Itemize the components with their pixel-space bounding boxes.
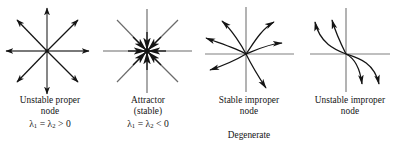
inequality: > 0 — [56, 118, 71, 129]
caption-line-2: (stable) — [100, 106, 196, 117]
caption-line-2: node — [302, 106, 398, 117]
panel-unstable-proper-node: Unstable proper node λ1 = λ2 > 0 — [0, 0, 100, 147]
inequality: < 0 — [154, 118, 169, 129]
caption-attractor: Attractor (stable) λ1 = λ2 < 0 — [100, 95, 196, 132]
trajectory-lower-left-1 — [210, 54, 246, 70]
ray-down-left — [17, 51, 47, 82]
origin-point — [144, 48, 149, 53]
arrow-in-up-right — [148, 37, 161, 50]
caption-line-1: Unstable improper — [302, 95, 398, 106]
trajectory-right — [246, 43, 282, 54]
phase-portrait-figure: Unstable proper node λ1 = λ2 > 0 — [0, 0, 398, 147]
trajectory-lower-right-1 — [246, 54, 266, 88]
trajectory-upper-left-2 — [206, 38, 246, 54]
arrow-in-down-right — [148, 52, 161, 65]
trajectory-lower-right-outer — [346, 54, 379, 84]
diagram-improper-node-stable — [196, 0, 302, 95]
arrow-in-down-left — [133, 52, 146, 65]
caption-line-2: node — [196, 106, 302, 117]
caption-stable-improper-node: Stable improper node — [196, 95, 302, 118]
trajectory-upper-right-1 — [246, 22, 274, 54]
equals-sign: = — [37, 118, 47, 129]
trajectory-upper-left-outer — [315, 22, 346, 54]
ray-up-left — [17, 20, 47, 51]
ray-up-right — [47, 20, 78, 51]
degenerate-group-label: Degenerate — [196, 130, 302, 141]
equals-sign: = — [135, 118, 145, 129]
origin-point — [45, 49, 48, 52]
caption-unstable-improper-node: Unstable improper node — [302, 95, 398, 118]
diagram-star-node-outward — [0, 0, 100, 95]
eigenvalue-condition: λ1 = λ2 < 0 — [100, 118, 196, 132]
diagram-improper-node-unstable — [302, 0, 398, 95]
caption-unstable-proper-node: Unstable proper node λ1 = λ2 > 0 — [0, 95, 100, 132]
arrow-in-up-left — [133, 37, 146, 50]
panel-attractor: Attractor (stable) λ1 = λ2 < 0 — [100, 0, 196, 147]
caption-line-2: node — [0, 106, 100, 117]
eigenvalue-condition: λ1 = λ2 > 0 — [0, 118, 100, 132]
caption-line-1: Stable improper — [196, 95, 302, 106]
diagram-star-node-inward — [100, 0, 196, 95]
panel-unstable-improper-node: Unstable improper node — [302, 0, 398, 147]
panel-stable-improper-node: Stable improper node — [196, 0, 302, 147]
caption-line-1: Attractor — [100, 95, 196, 106]
caption-line-1: Unstable proper — [0, 95, 100, 106]
ray-down-right — [47, 51, 78, 82]
